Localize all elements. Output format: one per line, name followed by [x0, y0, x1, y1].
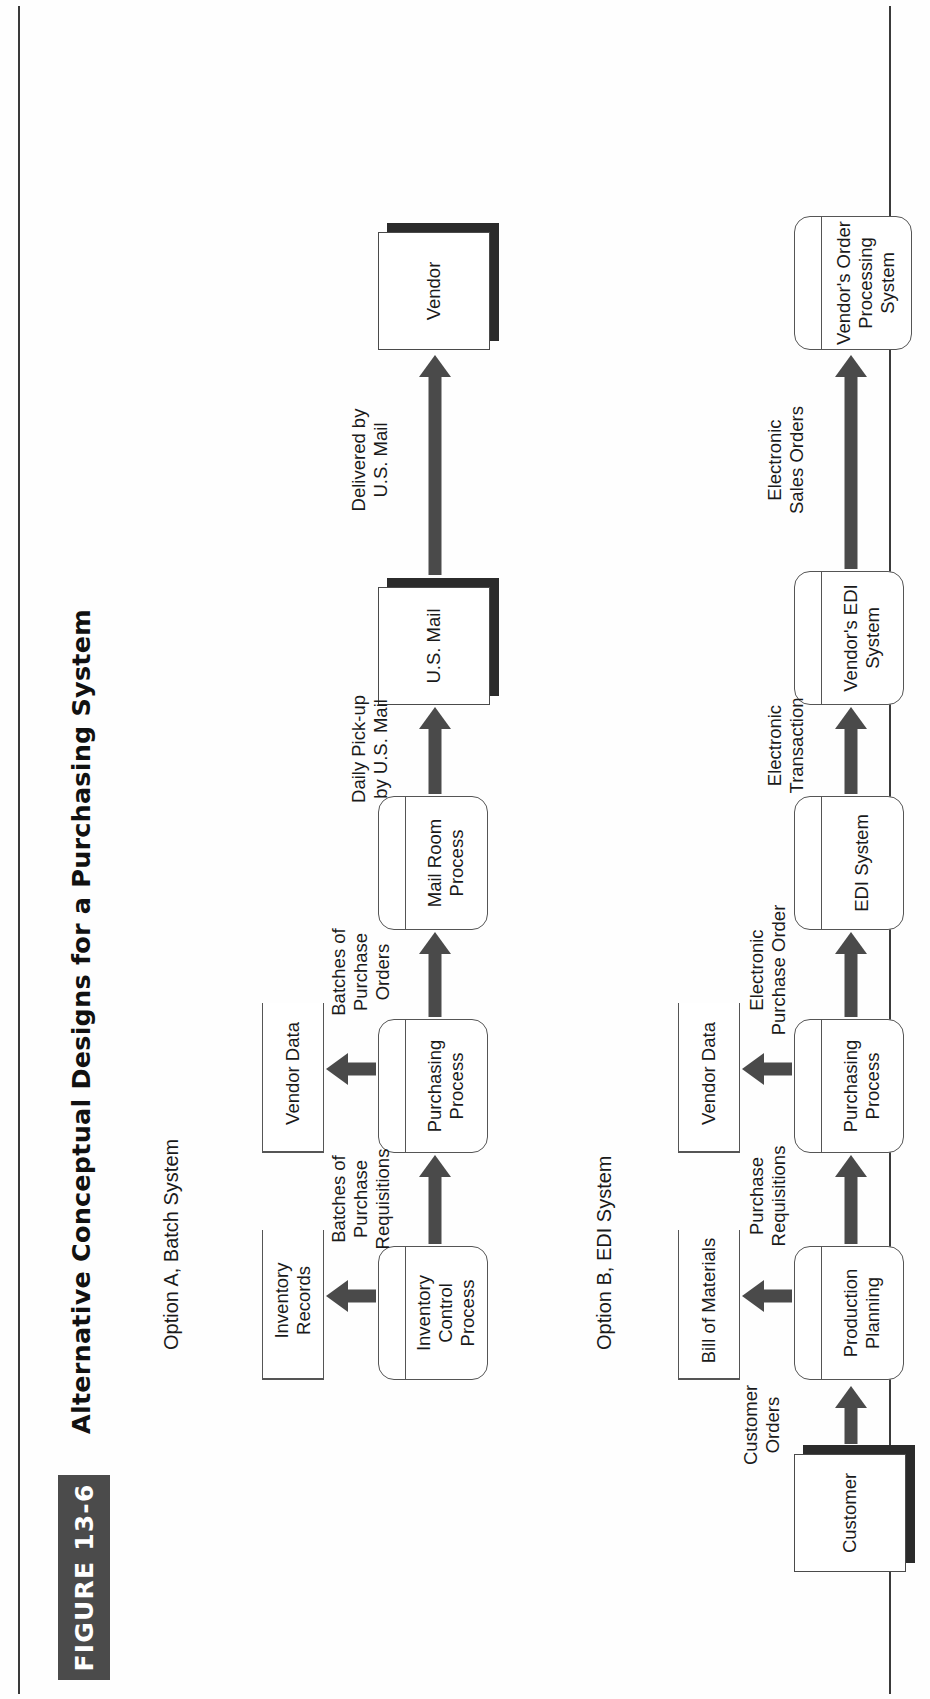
process-vendors-edi-system-label: Vendor's EDI System — [821, 572, 903, 704]
flow-label-daily-pickup: Daily Pick-up by U.S. Mail — [348, 684, 392, 814]
flow-label-batches-requisitions: Batches of Purchase Requisitions — [328, 1144, 395, 1254]
arrow-shaft — [845, 1174, 858, 1244]
arrow-shaft — [845, 1404, 858, 1444]
arrow-shaft — [346, 1062, 376, 1075]
option-a-caption: Option A, Batch System — [160, 1138, 183, 1349]
entity-customer: Customer — [794, 1454, 906, 1572]
arrow-shaft — [845, 951, 858, 1017]
arrow-shaft — [429, 726, 442, 794]
arrow-shaft — [429, 1174, 442, 1244]
arrow-vendor-data-to-purchasing-a — [326, 1051, 376, 1087]
option-b-caption: Option B, EDI System — [593, 1155, 616, 1350]
arrow-shaft — [762, 1289, 792, 1302]
arrow-shaft — [762, 1062, 792, 1075]
process-production-planning-label: Production Planning — [821, 1247, 903, 1379]
flow-label-electronic-transaction: Electronic Transaction — [764, 683, 808, 808]
arrow-vendors-edi-to-order-processing — [834, 355, 868, 569]
process-purchasing-b-label: Purchasing Process — [821, 1020, 903, 1152]
flow-label-customer-orders: Customer Orders — [740, 1370, 784, 1480]
process-vendors-order-processing-system: Vendor's Order Processing System — [794, 216, 912, 350]
datastore-vendor-data-a-label: Vendor Data — [263, 1003, 323, 1152]
process-edi-system: EDI System — [794, 796, 904, 930]
arrow-production-planning-to-purchasing — [834, 1155, 868, 1244]
arrow-shaft — [429, 375, 442, 575]
datastore-bill-of-materials-label: Bill of Materials — [679, 1230, 739, 1379]
process-mail-room-label: Mail Room Process — [405, 797, 487, 929]
arrow-edi-system-to-vendors-edi-system — [834, 707, 868, 794]
arrow-head — [835, 1386, 867, 1408]
flow-label-purchase-requisitions: Purchase Requisitions — [746, 1140, 790, 1252]
process-vendors-order-processing-system-label: Vendor's Order Processing System — [821, 217, 911, 349]
arrow-head — [835, 932, 867, 954]
arrow-shaft — [346, 1289, 376, 1302]
figure-number-badge: FIGURE 13-6 — [58, 1475, 110, 1680]
entity-customer-label: Customer — [839, 1472, 861, 1552]
process-mail-room: Mail Room Process — [378, 796, 488, 930]
flow-label-delivered: Delivered by U.S. Mail — [348, 390, 392, 530]
flow-label-batches-orders: Batches of Purchase Orders — [328, 917, 395, 1027]
process-edi-system-label: EDI System — [821, 797, 903, 929]
entity-customer-label-face: Customer — [794, 1454, 906, 1572]
arrow-head — [326, 1053, 348, 1085]
arrow-head — [835, 707, 867, 729]
entity-us-mail: U.S. Mail — [378, 587, 490, 705]
figure-number-label: FIGURE 13-6 — [70, 1483, 99, 1671]
process-purchasing-b: Purchasing Process — [794, 1019, 904, 1153]
datastore-bill-of-materials: Bill of Materials — [678, 1230, 740, 1380]
process-purchasing-a-label: Purchasing Process — [405, 1020, 487, 1152]
arrow-shaft — [429, 951, 442, 1017]
arrow-purchasing-to-mail-room — [418, 932, 452, 1017]
process-vendors-edi-system: Vendor's EDI System — [794, 571, 904, 705]
arrow-customer-to-production-planning — [834, 1386, 868, 1444]
arrow-bom-to-production-planning — [742, 1278, 792, 1314]
entity-vendor-label-face: Vendor — [378, 232, 490, 350]
arrow-head — [419, 932, 451, 954]
arrow-head — [835, 1155, 867, 1177]
flow-label-electronic-po: Electronic Purchase Order — [746, 900, 790, 1040]
arrow-shaft — [845, 375, 858, 569]
flow-label-electronic-sales-orders: Electronic Sales Orders — [764, 390, 808, 530]
arrow-inventory-control-to-purchasing — [418, 1155, 452, 1244]
arrow-head — [419, 707, 451, 729]
figure-title: Alternative Conceptual Designs for a Pur… — [66, 609, 96, 1434]
process-inventory-control-label: Inventory Control Process — [405, 1247, 487, 1379]
figure-canvas: FIGURE 13-6 Alternative Conceptual Desig… — [40, 20, 890, 1680]
entity-vendor-label: Vendor — [423, 261, 445, 320]
arrow-head — [742, 1280, 764, 1312]
entity-vendor: Vendor — [378, 232, 490, 350]
arrow-head — [742, 1053, 764, 1085]
arrow-head — [419, 355, 451, 377]
entity-us-mail-label: U.S. Mail — [423, 608, 445, 683]
arrow-mail-room-to-us-mail — [418, 707, 452, 794]
datastore-vendor-data-b-label: Vendor Data — [679, 1003, 739, 1152]
arrow-head — [419, 1155, 451, 1177]
datastore-vendor-data-a: Vendor Data — [262, 1003, 324, 1153]
arrow-us-mail-to-vendor — [418, 355, 452, 575]
datastore-vendor-data-b: Vendor Data — [678, 1003, 740, 1153]
page-rule-left — [18, 6, 20, 1694]
arrow-head — [326, 1280, 348, 1312]
process-purchasing-a: Purchasing Process — [378, 1019, 488, 1153]
arrow-vendor-data-to-purchasing-b — [742, 1051, 792, 1087]
figure-page: FIGURE 13-6 Alternative Conceptual Desig… — [0, 0, 930, 1699]
arrow-purchasing-to-edi-system — [834, 932, 868, 1017]
process-inventory-control: Inventory Control Process — [378, 1246, 488, 1380]
entity-us-mail-label-face: U.S. Mail — [378, 587, 490, 705]
datastore-inventory-records-label: Inventory Records — [263, 1230, 323, 1379]
process-production-planning: Production Planning — [794, 1246, 904, 1380]
datastore-inventory-records: Inventory Records — [262, 1230, 324, 1380]
arrow-inventory-records-to-inventory-control — [326, 1278, 376, 1314]
arrow-shaft — [845, 726, 858, 794]
arrow-head — [835, 355, 867, 377]
